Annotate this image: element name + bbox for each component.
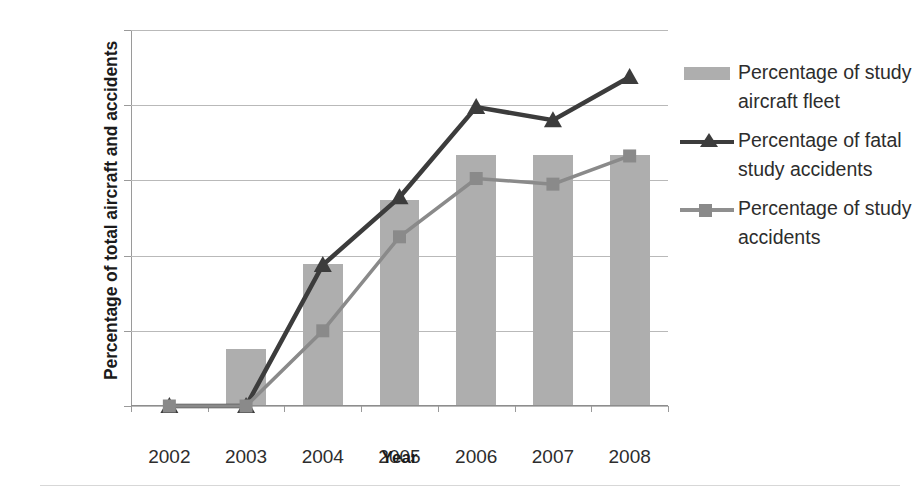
square-marker	[240, 400, 253, 413]
square-marker	[393, 230, 406, 243]
legend-item: Percentage of study aircraft fleet	[676, 58, 920, 116]
plot-area: 0%20%40%60%80%100%2002200320042005200620…	[131, 30, 668, 406]
legend-item-label: Percentage of fatal study accidents	[738, 126, 920, 184]
y-axis-tick-mark	[124, 331, 131, 332]
x-axis-tick-mark	[668, 406, 669, 412]
x-axis-tick-mark	[438, 406, 439, 412]
triangle-marker	[621, 68, 639, 84]
y-axis-tick-mark	[124, 256, 131, 257]
page-divider-rule	[40, 485, 900, 486]
x-axis-tick-mark	[515, 406, 516, 412]
legend-triangle-marker-icon	[700, 133, 718, 147]
x-axis-tick-mark	[284, 406, 285, 412]
x-axis-tick-mark	[131, 406, 132, 412]
x-axis-tick-mark	[591, 406, 592, 412]
legend-item: Percentage of fatal study accidents	[676, 126, 920, 184]
square-marker	[546, 178, 559, 191]
chart-legend: Percentage of study aircraft fleetPercen…	[676, 58, 920, 262]
x-axis-title: Year	[131, 448, 668, 468]
square-marker	[316, 324, 329, 337]
y-axis-tick-mark	[124, 180, 131, 181]
y-axis-tick-mark	[124, 105, 131, 106]
legend-square-marker-icon	[699, 204, 712, 217]
legend-bar-swatch-icon	[684, 67, 730, 80]
y-axis-title: Percentage of total aircraft and acciden…	[101, 0, 122, 426]
square-marker	[470, 172, 483, 185]
line-series-layer	[131, 30, 668, 406]
chart-figure: Percentage of total aircraft and acciden…	[0, 0, 920, 492]
y-axis-tick-mark	[124, 30, 131, 31]
x-axis-tick-mark	[361, 406, 362, 412]
legend-item-label: Percentage of study accidents	[738, 194, 920, 252]
square-marker	[163, 400, 176, 413]
y-axis-tick-mark	[124, 406, 131, 407]
legend-item: Percentage of study accidents	[676, 194, 920, 252]
square-marker	[623, 149, 636, 162]
legend-item-label: Percentage of study aircraft fleet	[738, 58, 920, 116]
